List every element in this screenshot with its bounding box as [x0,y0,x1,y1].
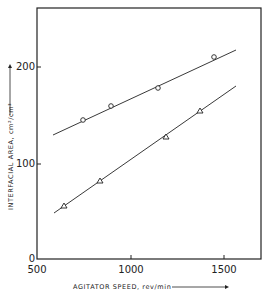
x-tick-label: 1500 [211,264,236,275]
y-tick-label: 200 [16,61,35,72]
chart: 500 1000 1500 0 100 200 AGITATOR SPEED, … [0,0,267,298]
circle-markers [81,55,217,123]
triangle-fit-line [54,86,236,213]
x-axis-arrow-icon [172,285,229,289]
y-axis-label: INTERFACIAL AREA, cm²/cm³ [7,103,15,210]
y-tick-label: 100 [16,158,35,169]
x-ticks [131,255,224,259]
x-axis-label: AGITATOR SPEED, rev/min [73,283,171,291]
plot-frame [37,8,261,259]
x-tick-label: 1000 [118,264,143,275]
x-tick-label: 500 [27,264,46,275]
circle-fit-line [53,50,236,135]
y-tick-label: 0 [29,253,35,264]
